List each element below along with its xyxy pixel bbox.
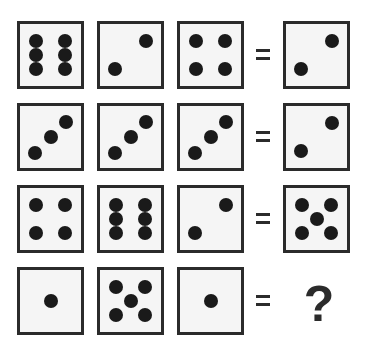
pip-dot xyxy=(28,146,42,160)
pip-dot xyxy=(139,34,153,48)
pip-dot xyxy=(188,146,202,160)
pip-dot xyxy=(138,212,152,226)
die-face-4 xyxy=(177,21,244,89)
pip-dot xyxy=(109,280,123,294)
die-face-2 xyxy=(177,185,244,253)
pip-dot xyxy=(138,308,152,322)
pip-dot xyxy=(29,226,43,240)
unknown-answer: ? xyxy=(299,279,339,329)
equals-sign xyxy=(256,131,270,142)
pip-dot xyxy=(59,115,73,129)
die-face-4 xyxy=(17,185,84,253)
pip-dot xyxy=(124,294,138,308)
pip-dot xyxy=(58,62,72,76)
equals-sign xyxy=(256,49,270,60)
pip-dot xyxy=(188,226,202,240)
pip-dot xyxy=(138,198,152,212)
pip-dot xyxy=(325,34,339,48)
pip-dot xyxy=(109,198,123,212)
pip-dot xyxy=(58,34,72,48)
pip-dot xyxy=(124,130,138,144)
die-face-1 xyxy=(17,267,84,335)
pip-dot xyxy=(29,48,43,62)
pip-dot xyxy=(58,198,72,212)
pip-dot xyxy=(109,308,123,322)
pip-dot xyxy=(108,146,122,160)
pip-dot xyxy=(294,144,308,158)
pip-dot xyxy=(108,62,122,76)
equals-sign xyxy=(256,213,270,224)
pip-dot xyxy=(324,198,338,212)
pip-dot xyxy=(218,62,232,76)
pip-dot xyxy=(138,280,152,294)
pip-dot xyxy=(109,226,123,240)
pip-dot xyxy=(295,198,309,212)
pip-dot xyxy=(204,130,218,144)
pip-dot xyxy=(29,34,43,48)
equals-sign xyxy=(256,295,270,306)
pip-dot xyxy=(204,294,218,308)
pip-dot xyxy=(44,130,58,144)
pip-dot xyxy=(295,226,309,240)
pip-dot xyxy=(139,115,153,129)
pip-dot xyxy=(219,115,233,129)
die-face-1 xyxy=(177,267,244,335)
pip-dot xyxy=(189,34,203,48)
pip-dot xyxy=(294,62,308,76)
pip-dot xyxy=(325,116,339,130)
die-face-2 xyxy=(97,21,164,89)
result-die-face-2 xyxy=(283,103,350,171)
pip-dot xyxy=(324,226,338,240)
pip-dot xyxy=(310,212,324,226)
pip-dot xyxy=(219,198,233,212)
pip-dot xyxy=(58,48,72,62)
die-face-6 xyxy=(97,185,164,253)
die-face-3 xyxy=(177,103,244,171)
die-face-6 xyxy=(17,21,84,89)
result-die-face-5 xyxy=(283,185,350,253)
pip-dot xyxy=(138,226,152,240)
die-face-3 xyxy=(17,103,84,171)
pip-dot xyxy=(218,34,232,48)
pip-dot xyxy=(189,62,203,76)
pip-dot xyxy=(29,62,43,76)
pip-dot xyxy=(109,212,123,226)
pip-dot xyxy=(29,198,43,212)
pip-dot xyxy=(58,226,72,240)
die-face-5 xyxy=(97,267,164,335)
pip-dot xyxy=(44,294,58,308)
result-die-face-2 xyxy=(283,21,350,89)
die-face-3 xyxy=(97,103,164,171)
